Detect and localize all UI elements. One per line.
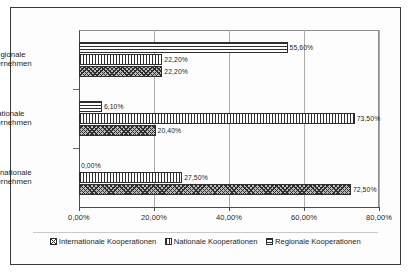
category-label-line: Unternehmen xyxy=(0,59,53,69)
bar-value-label: 0,00% xyxy=(81,162,101,169)
chart-legend: Internationale KooperationenNationale Ko… xyxy=(11,237,400,246)
bar-value-label: 72,50% xyxy=(353,186,377,193)
legend-item-2[interactable]: Nationale Kooperationen xyxy=(165,237,257,246)
x-axis-tick-label: 0,00% xyxy=(68,213,90,222)
category-tick xyxy=(73,89,79,90)
bar-value-label: 73,50% xyxy=(357,115,381,122)
x-axis-tick-label: 20,00% xyxy=(141,213,167,222)
bar xyxy=(79,66,162,77)
bar-value-label: 27,50% xyxy=(184,174,208,181)
bar xyxy=(79,101,102,112)
x-axis-tick xyxy=(379,207,380,211)
legend-item-3[interactable]: Regionale Kooperationen xyxy=(266,237,360,246)
category-label-1: RegionaleUnternehmen xyxy=(0,50,53,69)
x-axis-tick xyxy=(304,207,305,211)
bar-value-label: 20,40% xyxy=(158,127,182,134)
bar xyxy=(79,113,355,124)
x-axis-tick xyxy=(229,207,230,211)
legend-swatch-icon xyxy=(50,238,57,245)
bar xyxy=(79,184,351,195)
category-label-line: Unternehmen xyxy=(0,177,53,187)
bar-value-label: 22,20% xyxy=(164,68,188,75)
bar xyxy=(79,125,156,136)
legend-label: Regionale Kooperationen xyxy=(275,237,361,246)
x-axis-tick-label: 80,00% xyxy=(366,213,392,222)
x-axis-tick xyxy=(79,207,80,211)
bar-value-label: 6,10% xyxy=(104,103,124,110)
legend-divider xyxy=(33,232,378,233)
category-label-line: Nationale xyxy=(0,109,53,119)
bar xyxy=(79,172,182,183)
legend-swatch-icon xyxy=(165,238,172,245)
legend-label: Internationale Kooperationen xyxy=(59,237,157,246)
legend-label: Nationale Kooperationen xyxy=(174,237,258,246)
x-axis-tick-label: 60,00% xyxy=(291,213,317,222)
bar xyxy=(79,42,288,53)
x-axis-tick xyxy=(154,207,155,211)
category-tick xyxy=(73,148,79,149)
bar-value-label: 55,60% xyxy=(290,44,314,51)
bar-value-label: 22,20% xyxy=(164,56,188,63)
legend-swatch-icon xyxy=(266,238,273,245)
category-label-line: Regionale xyxy=(0,50,53,60)
category-label-line: Unternehmen xyxy=(0,118,53,128)
x-axis-tick-label: 40,00% xyxy=(216,213,242,222)
legend-item-1[interactable]: Internationale Kooperationen xyxy=(50,237,156,246)
category-label-2: NationaleUnternehmen xyxy=(0,109,53,128)
category-label-line: Internationale xyxy=(0,168,53,178)
category-label-3: InternationaleUnternehmen xyxy=(0,168,53,187)
bar xyxy=(79,54,162,65)
chart-frame: 0,00%20,00%40,00%60,00%80,00% RegionaleU… xyxy=(10,7,401,265)
